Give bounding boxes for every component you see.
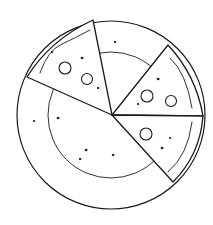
top-left-slice — [27, 20, 112, 115]
lower-right-slice — [112, 115, 203, 182]
upper-right-slice — [112, 45, 203, 116]
pizza-sketch — [0, 0, 213, 225]
